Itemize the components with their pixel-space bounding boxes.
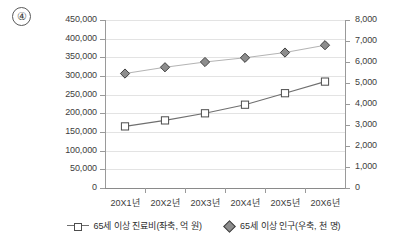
diamond-key-icon (224, 221, 236, 231)
square-line-key-icon (67, 221, 89, 231)
data-point-diamond (240, 53, 249, 62)
series-line (125, 45, 325, 73)
data-point-square (121, 123, 128, 130)
chart-page: ④ 050,000100,000150,000200,000250,000300… (0, 0, 408, 241)
legend-item-treatment-cost: 65세 이상 진료비(좌축, 억 원) (67, 219, 202, 232)
data-point-diamond (200, 57, 209, 66)
series-population (120, 41, 329, 79)
line-chart: 050,000100,000150,000200,000250,000300,0… (0, 0, 408, 212)
data-point-square (281, 90, 288, 97)
legend-item-population: 65세 이상 인구(우축, 천 명) (224, 219, 341, 232)
data-point-diamond (160, 63, 169, 72)
series-treatment-cost (121, 78, 328, 130)
legend-label-population: 65세 이상 인구(우축, 천 명) (240, 219, 341, 232)
legend-label-treatment-cost: 65세 이상 진료비(좌축, 억 원) (93, 219, 202, 232)
data-point-diamond (120, 69, 129, 78)
series-line (125, 82, 325, 127)
series-layer (0, 0, 408, 212)
data-point-diamond (320, 41, 329, 50)
data-point-square (201, 110, 208, 117)
data-point-square (161, 117, 168, 124)
data-point-square (241, 101, 248, 108)
chart-legend: 65세 이상 진료비(좌축, 억 원) 65세 이상 인구(우축, 천 명) (0, 219, 408, 232)
data-point-square (321, 78, 328, 85)
data-point-diamond (280, 48, 289, 57)
